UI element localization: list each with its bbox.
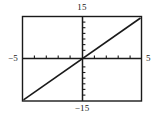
graph-figure: 15 −15 −5 5	[0, 0, 157, 118]
x-axis-min-label: −5	[8, 54, 18, 63]
y-axis-max-label: 15	[77, 3, 86, 12]
x-axis-max-label: 5	[146, 54, 151, 63]
coordinate-plane-plot	[0, 0, 157, 118]
y-axis-min-label: −15	[75, 104, 90, 113]
